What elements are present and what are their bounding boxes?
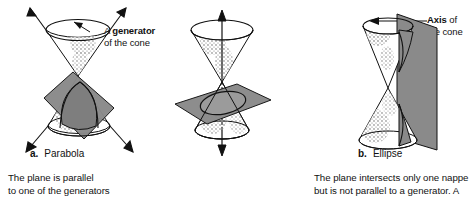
generator-callout: A generator of the cone — [104, 25, 155, 48]
ellipse-diagram — [155, 0, 330, 160]
description-line: The plane is parallel — [8, 171, 158, 184]
caption-parabola: a.Parabola — [30, 148, 84, 160]
panel-hyperbola: Upper nappe of the cone c.Hyperbola The … — [325, 0, 475, 204]
panel-parabola: A generator of the cone a.Parabola The p… — [0, 0, 160, 204]
callout-text-line2: of the cone — [104, 37, 155, 49]
caption-name: Parabola — [38, 148, 84, 159]
callout-text-bold: generator — [112, 25, 155, 36]
callout-leader-icon — [88, 26, 110, 38]
hyperbola-diagram — [325, 0, 475, 160]
description-parabola: The plane is parallel to one of the gene… — [8, 171, 158, 197]
conic-sections-figure: A generator of the cone a.Parabola The p… — [0, 0, 475, 204]
panel-ellipse: Axis of the cone b.Ellipse The plane int… — [155, 0, 330, 204]
description-line: to one of the generators — [8, 184, 158, 197]
